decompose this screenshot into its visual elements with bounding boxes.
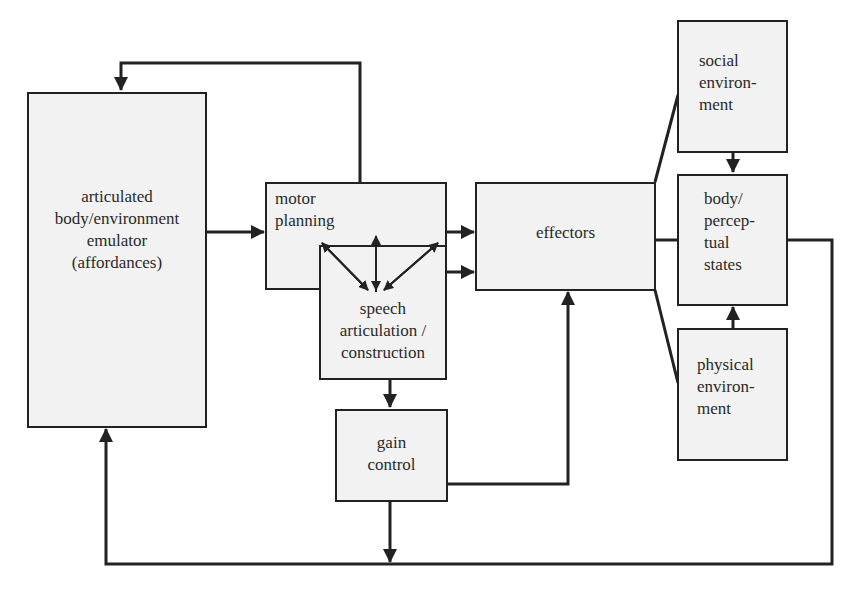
social-environment-label: social environ- ment (699, 50, 784, 116)
effectors-label: effectors (475, 222, 656, 244)
physical-environment-label: physical environ- ment (697, 354, 785, 420)
gain-control-label: gain control (335, 432, 448, 476)
body-states-label: body/ percep- tual states (704, 188, 784, 276)
